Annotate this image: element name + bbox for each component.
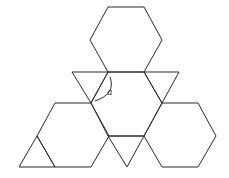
triangle-left (72, 72, 108, 103)
hexagon-center (91, 72, 162, 136)
hexagon-top (90, 7, 162, 72)
triangle-bottom-left (19, 136, 55, 167)
triangle-right (144, 72, 179, 103)
angle-label: a (107, 87, 112, 97)
truncated-tetrahedron-net: a (0, 0, 229, 178)
hexagon-bottom-left (37, 103, 109, 167)
triangle-bottom-middle (108, 136, 144, 167)
hexagon-bottom-right (144, 103, 216, 167)
